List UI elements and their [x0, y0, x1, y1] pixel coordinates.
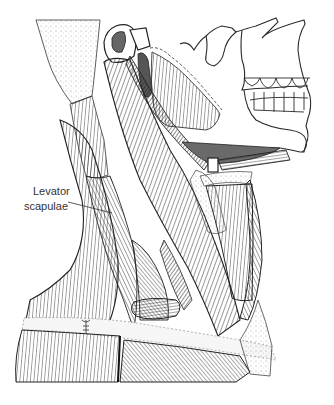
label-levator-line1: Levator [33, 185, 70, 197]
omohyoid-muscle [131, 298, 180, 319]
skull-outline [180, 18, 311, 152]
label-levator-line2: scapulae [24, 200, 68, 212]
